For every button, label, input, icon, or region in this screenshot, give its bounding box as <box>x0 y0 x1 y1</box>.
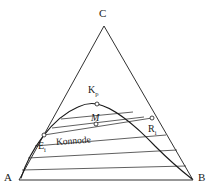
diagram-canvas <box>0 0 211 192</box>
point-label-kp: Kp <box>88 85 98 98</box>
ternary-phase-diagram: C A B Kp M Ei Ri Konnode <box>0 0 211 192</box>
vertex-label-b: B <box>198 172 205 183</box>
vertex-label-a: A <box>4 172 12 183</box>
point-label-ei-subscript: i <box>44 146 46 153</box>
point-label-ri-subscript: i <box>155 129 157 136</box>
point-label-ri-base: R <box>148 123 155 134</box>
tie-line-group <box>22 112 186 170</box>
point-label-m-base: M <box>91 112 99 123</box>
marker-ei <box>42 133 46 137</box>
triangle-edge-right <box>104 26 193 180</box>
tie-line <box>28 150 177 158</box>
point-label-m: M <box>91 113 99 123</box>
marker-ri <box>150 116 154 120</box>
point-label-kp-subscript: p <box>95 90 98 97</box>
tie-line <box>22 166 186 170</box>
vertex-label-c: C <box>99 8 106 19</box>
point-label-ei: Ei <box>38 141 46 154</box>
point-label-ri: Ri <box>148 124 156 137</box>
marker-kp <box>95 102 99 106</box>
